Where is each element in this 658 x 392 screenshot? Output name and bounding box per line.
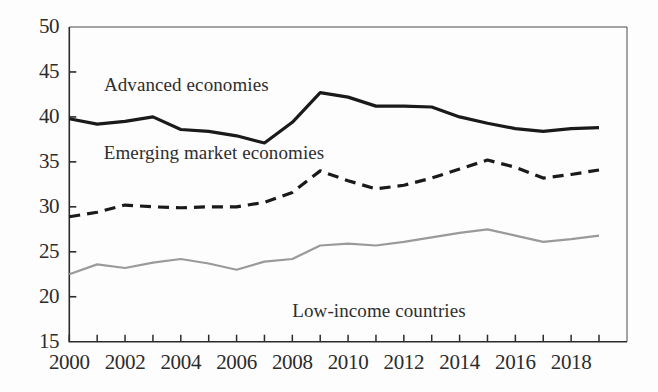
chart-series-group	[69, 93, 599, 275]
chart-figure: 5045403530252015 20002002200420062008201…	[0, 0, 658, 392]
y-axis-label-45: 45	[19, 59, 59, 84]
y-axis-label-35: 35	[19, 149, 59, 174]
y-axis-label-20: 20	[19, 284, 59, 309]
y-axis-label-40: 40	[19, 104, 59, 129]
annotation-advanced-economies: Advanced economies	[104, 74, 269, 96]
y-axis-label-50: 50	[19, 14, 59, 39]
x-axis-label-2018: 2018	[536, 350, 606, 375]
y-axis-label-30: 30	[19, 194, 59, 219]
series-line-advanced-economies	[69, 93, 599, 143]
series-line-emerging-market-economies	[69, 160, 599, 217]
y-axis-label-25: 25	[19, 239, 59, 264]
series-line-low-income-countries	[69, 229, 599, 274]
annotation-low-income-countries: Low-income countries	[292, 300, 465, 322]
chart-plot-area	[0, 0, 658, 392]
annotation-emerging-market-economies: Emerging market economies	[104, 142, 325, 164]
